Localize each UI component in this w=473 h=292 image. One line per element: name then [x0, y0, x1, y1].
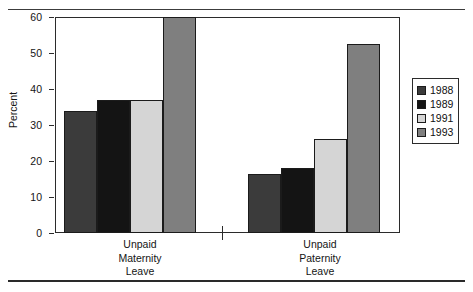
bar [347, 44, 380, 233]
legend-item[interactable]: 1993 [417, 125, 453, 139]
legend-item[interactable]: 1989 [417, 97, 453, 111]
bar [248, 174, 281, 233]
x-group-label-maternity: Unpaid Maternity Leave [85, 238, 195, 279]
legend-item[interactable]: 1991 [417, 111, 453, 125]
legend-swatch-icon [417, 100, 426, 109]
legend-swatch-icon [417, 86, 426, 95]
bars-layer [0, 0, 473, 292]
bar [314, 139, 347, 233]
bar [163, 17, 196, 233]
legend-box: 1988198919911993 [412, 78, 459, 144]
bottom-divider-rule [8, 280, 465, 282]
x-group-label-paternity: Unpaid Paternity Leave [265, 238, 375, 279]
x-axis-mid-tick [222, 226, 223, 240]
bar [281, 168, 314, 233]
bar [64, 111, 97, 233]
legend-swatch-icon [417, 128, 426, 137]
legend-label: 1989 [430, 99, 453, 110]
legend-swatch-icon [417, 114, 426, 123]
legend-label: 1993 [430, 127, 453, 138]
bar [97, 100, 130, 233]
legend-label: 1991 [430, 113, 453, 124]
legend-item[interactable]: 1988 [417, 83, 453, 97]
legend-label: 1988 [430, 85, 453, 96]
chart-page: 6050403020100 Percent Unpaid Maternity L… [0, 0, 473, 292]
bar [130, 100, 163, 233]
